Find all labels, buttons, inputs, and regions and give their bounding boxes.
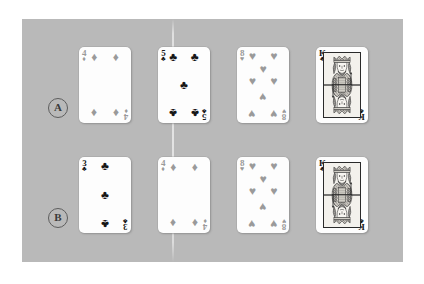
playing-card[interactable]: 4♦4♦♦♦♦♦ — [158, 157, 210, 233]
card-suit-pip: ♣ — [191, 51, 199, 63]
card-suit-icon: ♣ — [202, 107, 207, 113]
card-suit-pip: ♦ — [113, 107, 119, 119]
card-suit-icon: ♥ — [282, 107, 286, 113]
playing-card[interactable]: 4♦4♦♦♦♦♦ — [79, 47, 131, 123]
card-suit-pip: ♣ — [169, 107, 177, 119]
card-suit-pip: ♥ — [249, 50, 256, 62]
playing-card[interactable]: 5♣5♣♣♣♣♣♣ — [158, 47, 210, 123]
card-suit-pip: ♥ — [259, 201, 266, 213]
card-suit-pip: ♥ — [259, 63, 266, 75]
playing-card[interactable]: K♣K♣ — [316, 157, 368, 233]
card-suit-pip: ♦ — [91, 51, 97, 63]
card-suit-pip: ♣ — [101, 189, 109, 201]
card-suit-pip: ♣ — [101, 160, 109, 172]
card-suit-pip: ♥ — [270, 75, 277, 87]
card-suit-pip: ♥ — [249, 108, 256, 120]
card-suit-icon: ♦ — [82, 57, 86, 63]
card-suit-icon: ♦ — [203, 217, 207, 223]
court-figure-artwork — [323, 52, 361, 118]
card-index-bottom-right: 3♣ — [123, 217, 128, 230]
card-suit-icon: ♣ — [123, 217, 128, 223]
card-index-top-left: 4♦ — [82, 50, 86, 63]
card-suit-pip: ♦ — [192, 217, 198, 229]
card-suit-pip: ♦ — [113, 51, 119, 63]
card-suit-icon: ♣ — [82, 167, 87, 173]
card-suit-pip: ♥ — [270, 50, 277, 62]
card-index-bottom-right: 4♦ — [203, 217, 207, 230]
card-panel: A B 4♦4♦♦♦♦♦5♣5♣♣♣♣♣♣8♥8♥♥♥♥♥♥♥♥♥K♣K♣ — [22, 19, 403, 262]
card-index-top-left: 5♣ — [161, 50, 166, 63]
card-suit-pip: ♦ — [91, 107, 97, 119]
card-pip-field: ♦♦♦♦ — [169, 162, 199, 228]
card-suit-icon: ♣ — [161, 57, 166, 63]
card-index-top-left: 8♥ — [240, 50, 244, 63]
row-label-a: A — [48, 98, 68, 118]
card-suit-pip: ♥ — [249, 185, 256, 197]
card-suit-pip: ♥ — [259, 91, 266, 103]
card-suit-pip: ♥ — [270, 218, 277, 230]
figure-canvas: A B 4♦4♦♦♦♦♦5♣5♣♣♣♣♣♣8♥8♥♥♥♥♥♥♥♥♥K♣K♣ — [0, 0, 424, 284]
card-index-top-left: 3♣ — [82, 160, 87, 173]
card-suit-pip: ♥ — [249, 75, 256, 87]
card-index-top-left: 8♥ — [240, 160, 244, 173]
card-suit-pip: ♣ — [180, 79, 188, 91]
card-suit-pip: ♥ — [259, 173, 266, 185]
card-pip-field: ♦♦♦♦ — [90, 52, 120, 118]
card-suit-pip: ♦ — [192, 161, 198, 173]
card-suit-icon: ♥ — [282, 217, 286, 223]
card-suit-icon: ♦ — [161, 167, 165, 173]
card-suit-pip: ♣ — [169, 51, 177, 63]
card-suit-pip: ♣ — [101, 218, 109, 230]
card-pip-field: ♥♥♥♥♥♥♥♥ — [248, 162, 278, 228]
row-label-b: B — [48, 208, 68, 228]
court-figure-artwork — [323, 162, 361, 228]
playing-card[interactable]: 8♥8♥♥♥♥♥♥♥♥♥ — [237, 157, 289, 233]
card-suit-pip: ♥ — [249, 218, 256, 230]
card-suit-icon: ♦ — [124, 107, 128, 113]
card-pip-field: ♥♥♥♥♥♥♥♥ — [248, 52, 278, 118]
card-suit-pip: ♣ — [191, 107, 199, 119]
card-suit-icon: ♥ — [240, 167, 244, 173]
card-suit-pip: ♥ — [249, 160, 256, 172]
card-index-bottom-right: 4♦ — [124, 107, 128, 120]
playing-card[interactable]: K♣K♣ — [316, 47, 368, 123]
playing-card[interactable]: 8♥8♥♥♥♥♥♥♥♥♥ — [237, 47, 289, 123]
card-pip-field: ♣♣♣ — [90, 162, 120, 228]
card-index-top-left: 4♦ — [161, 160, 165, 173]
card-suit-pip: ♦ — [170, 161, 176, 173]
card-suit-pip: ♥ — [270, 160, 277, 172]
card-index-bottom-right: 8♥ — [282, 107, 286, 120]
card-suit-icon: ♥ — [240, 57, 244, 63]
card-suit-pip: ♥ — [270, 108, 277, 120]
card-suit-pip: ♦ — [170, 217, 176, 229]
playing-card[interactable]: 3♣3♣♣♣♣ — [79, 157, 131, 233]
card-suit-pip: ♥ — [270, 185, 277, 197]
card-index-bottom-right: 8♥ — [282, 217, 286, 230]
card-index-bottom-right: 5♣ — [202, 107, 207, 120]
card-pip-field: ♣♣♣♣♣ — [169, 52, 199, 118]
